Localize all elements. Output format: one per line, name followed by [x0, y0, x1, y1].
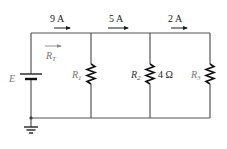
current-label-2: 5 A: [109, 13, 124, 24]
resistor-r1-branch: R1: [71, 33, 95, 118]
arrow-right-icon: [45, 44, 62, 47]
battery-branch: E: [8, 33, 42, 118]
arrow-right-icon: [54, 26, 71, 30]
resistor-r2-icon: [146, 64, 154, 84]
circuit-diagram: E R1 R2 4 Ω R3 9 A 5 A 2 A: [0, 0, 227, 149]
ground-icon: [24, 118, 38, 133]
resistor-r1-icon: [87, 64, 95, 84]
resistor-r2-value: 4 Ω: [158, 69, 173, 80]
arrow-right-icon: [171, 26, 188, 30]
resistor-r1-label: R1: [71, 69, 82, 82]
total-resistance-label: RT: [45, 50, 57, 63]
resistor-r3-icon: [206, 64, 214, 84]
current-label-1: 9 A: [50, 13, 65, 24]
source-label: E: [8, 73, 15, 84]
resistor-r2-branch: R2 4 Ω: [130, 33, 173, 118]
resistor-r3-label: R3: [190, 69, 201, 82]
arrow-right-icon: [108, 26, 129, 30]
resistor-r3-branch: R3: [190, 33, 214, 118]
resistor-r2-label: R2: [130, 69, 141, 82]
current-label-3: 2 A: [168, 13, 183, 24]
